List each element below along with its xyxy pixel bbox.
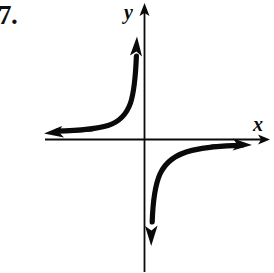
curve-path-quadrant-4 (152, 145, 240, 222)
x-axis-label: x (253, 114, 263, 134)
graph-figure: 7. y x (0, 0, 274, 273)
curve-arrowhead-down-icon (145, 226, 158, 247)
curve-branch-quadrant-4 (145, 139, 252, 246)
curve-tail-left-quadrant-2 (57, 130, 92, 132)
curve-path-quadrant-2 (57, 56, 136, 131)
problem-number-label: 7. (0, 2, 17, 29)
y-axis-label: y (124, 2, 133, 22)
curve-branch-quadrant-2 (44, 37, 142, 138)
coordinate-plane-svg (0, 0, 274, 273)
